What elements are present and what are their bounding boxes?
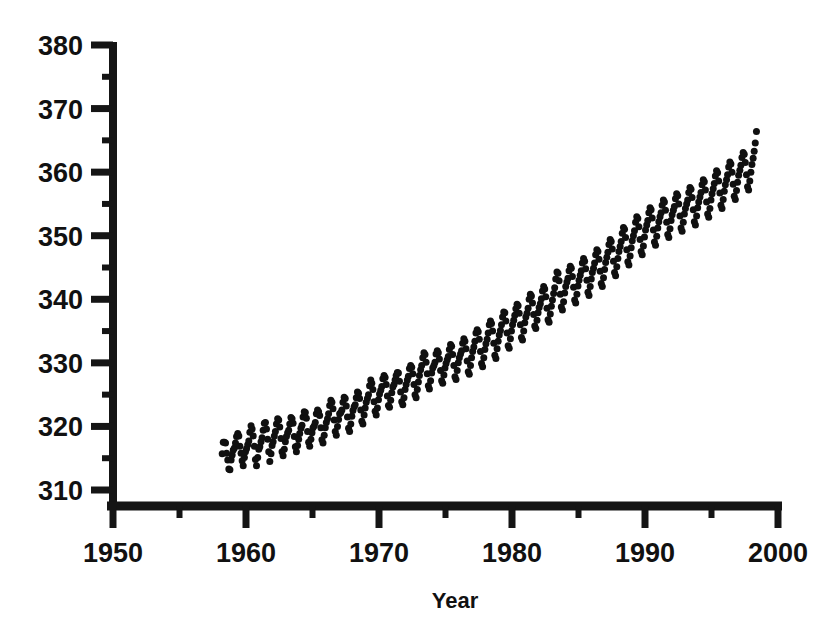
data-point <box>374 404 381 411</box>
data-point <box>502 317 509 324</box>
data-point <box>480 354 487 361</box>
data-point <box>595 256 602 263</box>
data-point <box>293 448 300 455</box>
data-point <box>333 432 340 439</box>
data-point <box>653 233 660 240</box>
data-point <box>609 246 616 253</box>
data-point <box>276 424 283 431</box>
data-point <box>667 225 674 232</box>
data-point <box>613 263 620 270</box>
data-point <box>236 443 243 450</box>
data-point <box>546 319 553 326</box>
data-point <box>706 205 713 212</box>
data-point <box>742 159 749 166</box>
data-point <box>641 233 648 240</box>
data-point <box>508 328 515 335</box>
data-point <box>488 320 495 327</box>
data-point <box>320 439 327 446</box>
data-point <box>373 411 380 418</box>
data-point <box>359 420 366 427</box>
data-point <box>439 380 446 387</box>
data-point <box>548 303 555 310</box>
y-tick-label: 380 <box>38 31 83 61</box>
x-tick-label: 1990 <box>615 538 675 568</box>
data-point <box>614 255 621 262</box>
data-point <box>573 291 580 298</box>
data-point <box>401 394 408 401</box>
data-point <box>748 161 755 168</box>
data-point <box>661 199 668 206</box>
data-point <box>547 310 554 317</box>
data-point <box>506 345 513 352</box>
data-point <box>494 345 501 352</box>
data-point <box>414 386 421 393</box>
data-point <box>662 207 669 214</box>
data-point <box>745 186 752 193</box>
data-point <box>495 338 502 345</box>
data-point <box>253 462 260 469</box>
y-tick-label: 350 <box>38 222 83 252</box>
data-point <box>356 395 363 402</box>
data-point <box>399 401 406 408</box>
data-point <box>321 432 328 439</box>
data-point <box>625 261 632 268</box>
data-point <box>639 251 646 258</box>
data-point <box>648 206 655 213</box>
data-point <box>266 458 273 465</box>
data-point <box>753 128 760 135</box>
data-point <box>507 335 514 342</box>
data-point <box>541 286 548 293</box>
data-point <box>294 442 301 449</box>
data-point <box>551 284 558 291</box>
data-point <box>347 420 354 427</box>
data-point <box>582 265 589 272</box>
data-point <box>747 169 754 176</box>
data-point <box>307 436 314 443</box>
data-point <box>559 307 566 314</box>
data-point <box>555 270 562 277</box>
data-point <box>752 139 759 146</box>
data-point <box>346 428 353 435</box>
data-point <box>468 354 475 361</box>
data-point <box>422 351 429 358</box>
data-point <box>426 385 433 392</box>
data-point <box>720 196 727 203</box>
data-point <box>316 412 323 419</box>
data-point <box>249 425 256 432</box>
data-point <box>489 328 496 335</box>
data-point <box>732 196 739 203</box>
y-tick-label: 340 <box>38 285 83 315</box>
data-point <box>599 283 606 290</box>
data-point <box>361 411 368 418</box>
data-point <box>627 253 634 260</box>
data-point <box>588 275 595 282</box>
data-point <box>594 248 601 255</box>
data-point <box>569 273 576 280</box>
data-point <box>448 343 455 350</box>
y-tick-label: 310 <box>38 476 83 506</box>
data-point <box>263 425 270 432</box>
data-point <box>560 298 567 305</box>
data-point <box>466 371 473 378</box>
data-point <box>436 356 443 363</box>
data-point <box>396 378 403 385</box>
data-point <box>368 380 375 387</box>
data-point <box>675 200 682 207</box>
data-point <box>427 377 434 384</box>
data-point <box>587 283 594 290</box>
data-point <box>395 370 402 377</box>
data-point <box>226 466 233 473</box>
data-point <box>519 336 526 343</box>
data-point <box>746 178 753 185</box>
data-point <box>235 432 242 439</box>
data-point <box>654 225 661 232</box>
data-point <box>453 376 460 383</box>
data-point <box>467 362 474 369</box>
data-point <box>479 363 486 370</box>
data-point <box>342 395 349 402</box>
data-point <box>334 423 341 430</box>
data-point <box>520 328 527 335</box>
data-point <box>312 419 319 426</box>
y-tick-label: 360 <box>38 158 83 188</box>
data-point <box>701 178 708 185</box>
